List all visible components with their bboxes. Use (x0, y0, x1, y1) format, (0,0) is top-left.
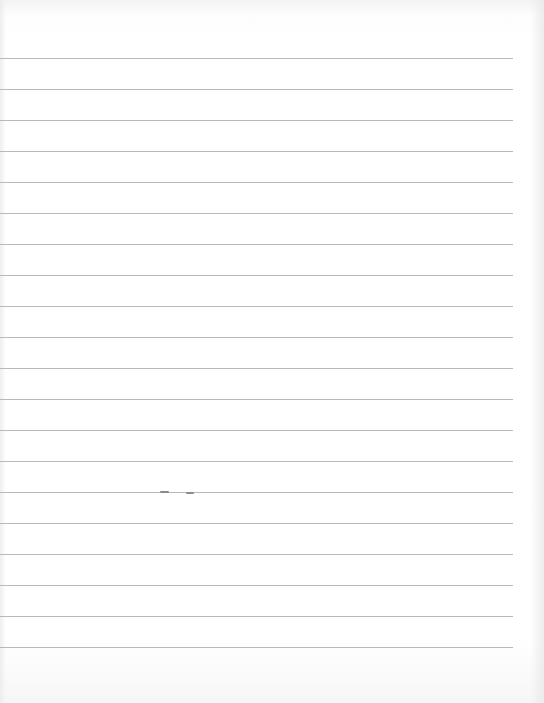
ruled-line (0, 461, 513, 462)
smudge-mark (186, 492, 194, 494)
ruled-line (0, 275, 513, 276)
ruled-line (0, 306, 513, 307)
ruled-line (0, 554, 513, 555)
ruled-line (0, 647, 513, 648)
ruled-line (0, 58, 513, 59)
ruled-line (0, 399, 513, 400)
smudge-mark (160, 491, 169, 493)
ruled-line (0, 151, 513, 152)
lined-paper-sheet (0, 0, 544, 703)
ruled-line (0, 120, 513, 121)
ruled-line (0, 616, 513, 617)
ruled-line (0, 182, 513, 183)
ruled-line (0, 337, 513, 338)
ruled-line (0, 523, 513, 524)
ruled-line (0, 492, 513, 493)
ruled-line (0, 89, 513, 90)
ruled-line (0, 368, 513, 369)
ruled-line (0, 244, 513, 245)
ruled-line (0, 430, 513, 431)
ruled-line (0, 213, 513, 214)
ruled-line (0, 585, 513, 586)
